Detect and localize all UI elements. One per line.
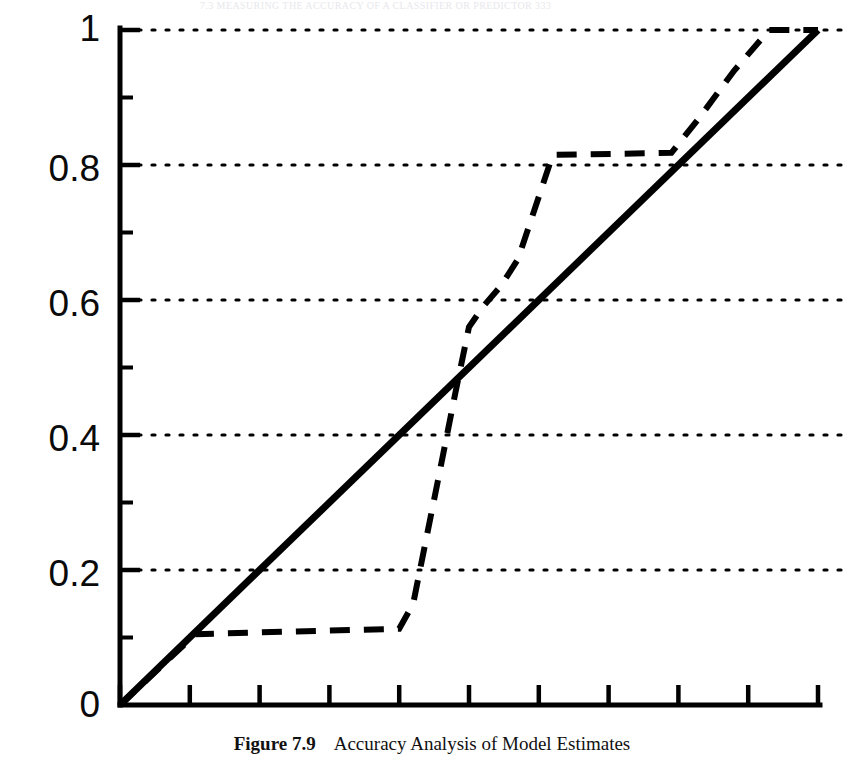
figure-caption-label: Figure 7.9 — [234, 733, 316, 754]
figure-caption-text: Accuracy Analysis of Model Estimates — [334, 733, 631, 754]
series-line-baseline — [120, 30, 818, 705]
y-axis-ticks-group — [120, 30, 140, 638]
figure-caption: Figure 7.9Accuracy Analysis of Model Est… — [0, 733, 864, 755]
data-series-group — [120, 30, 818, 705]
figure-container: 7.3 MEASURING THE ACCURACY OF A CLASSIFI… — [0, 0, 864, 771]
chart-plot-area: 1 0.8 0.6 0.4 0.2 0 — [0, 0, 864, 730]
x-axis-ticks-group — [120, 685, 818, 705]
chart-svg — [0, 0, 864, 730]
